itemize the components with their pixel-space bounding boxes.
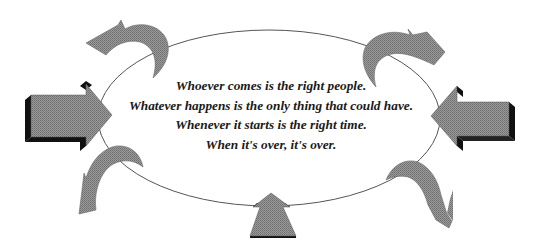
arrow-right-icon [25,81,112,151]
curved-arrow-bottom-right-icon [386,161,453,228]
quote-line-1: Whoever comes is the right people. [110,76,432,96]
quote-line-2: Whatever happens is the only thing that … [110,96,432,116]
arrow-up-icon [250,193,296,238]
arrow-left-icon [431,86,515,151]
quote-line-4: When it's over, it's over. [110,135,432,155]
quote-text-block: Whoever comes is the right people. Whate… [110,76,432,154]
quote-line-3: Whenever it starts is the right time. [110,115,432,135]
curved-arrow-bottom-left-icon [79,146,143,214]
